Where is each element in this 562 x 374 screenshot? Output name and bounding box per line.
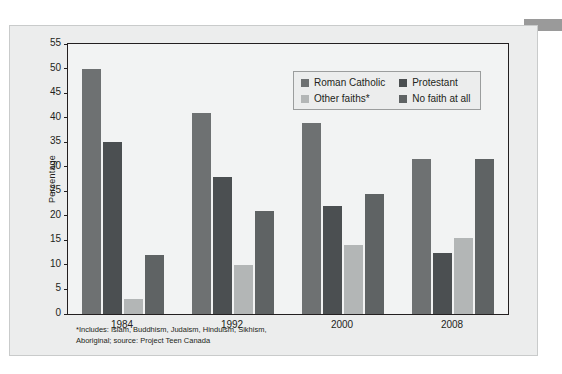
bar — [82, 69, 101, 314]
bar — [454, 238, 473, 314]
legend-label: Roman Catholic — [314, 77, 385, 88]
bar — [234, 265, 253, 314]
y-axis-tick-label: 55 — [50, 37, 61, 48]
footnote-line-2: Aboriginal; source: Project Teen Canada — [76, 336, 376, 347]
bar — [255, 211, 274, 314]
y-axis-tick-label: 35 — [50, 135, 61, 146]
y-axis-tick-label: 5 — [55, 282, 61, 293]
y-axis-tick-label: 15 — [50, 233, 61, 244]
x-axis-label: 2008 — [441, 319, 463, 330]
bar — [433, 253, 452, 314]
y-axis-tick-label: 20 — [50, 209, 61, 220]
page-canvas: Percentage 0510152025303540455055 Roman … — [0, 0, 562, 374]
bar — [412, 159, 431, 314]
chart-footnote: *Includes: Islam, Buddhism, Judaism, Hin… — [76, 325, 376, 347]
y-axis-tick-label: 40 — [50, 111, 61, 122]
bar — [302, 123, 321, 314]
y-axis-tick-label: 30 — [50, 160, 61, 171]
legend-swatch-icon — [301, 79, 309, 87]
bar — [344, 245, 363, 314]
y-axis-tick-label: 10 — [50, 258, 61, 269]
bar — [145, 255, 164, 314]
legend-swatch-icon — [399, 79, 407, 87]
y-axis-tick-label: 25 — [50, 184, 61, 195]
bar — [475, 159, 494, 314]
legend-label: Other faiths* — [314, 93, 370, 104]
bar — [323, 206, 342, 314]
bar — [103, 142, 122, 314]
chart-plot-area: Percentage 0510152025303540455055 Roman … — [67, 43, 509, 315]
y-axis-tick-label: 0 — [55, 307, 61, 318]
legend-item: Roman Catholic — [301, 77, 385, 88]
figure-card: Percentage 0510152025303540455055 Roman … — [9, 25, 538, 356]
bar — [192, 113, 211, 314]
legend-item: Protestant — [399, 77, 470, 88]
y-axis-tick-label: 45 — [50, 86, 61, 97]
legend-label: Protestant — [412, 77, 458, 88]
footnote-line-1: *Includes: Islam, Buddhism, Judaism, Hin… — [76, 325, 376, 336]
legend-item: Other faiths* — [301, 93, 385, 104]
legend-item: No faith at all — [399, 93, 470, 104]
y-axis-tick-label: 50 — [50, 62, 61, 73]
bar — [365, 194, 384, 314]
legend-swatch-icon — [399, 95, 407, 103]
bar — [124, 299, 143, 314]
legend-swatch-icon — [301, 95, 309, 103]
legend-label: No faith at all — [412, 93, 470, 104]
bar — [213, 177, 232, 314]
chart-legend: Roman CatholicProtestantOther faiths*No … — [293, 71, 481, 110]
